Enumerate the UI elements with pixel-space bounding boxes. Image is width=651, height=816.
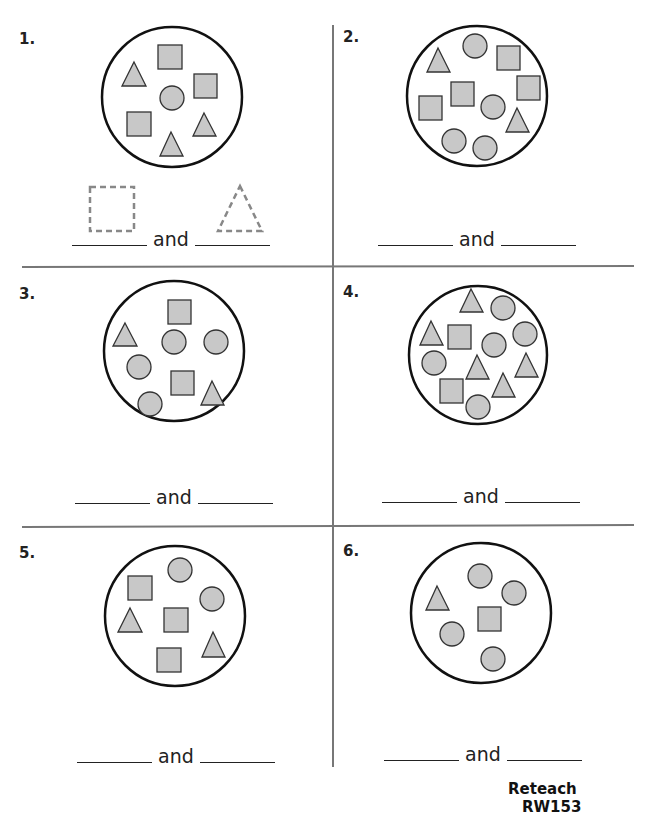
circle-icon xyxy=(127,355,151,379)
horizontal-divider-1 xyxy=(22,266,634,267)
answer-blank-2a[interactable] xyxy=(378,244,453,246)
square-icon xyxy=(158,45,182,69)
shape-set-4 xyxy=(409,286,547,424)
triangle-icon xyxy=(193,113,216,136)
square-icon xyxy=(168,300,191,324)
horizontal-divider-2 xyxy=(22,525,634,527)
triangle-icon xyxy=(160,132,183,156)
circle-icon xyxy=(200,587,224,611)
square-icon xyxy=(497,46,520,70)
circle-icon xyxy=(466,395,490,419)
circle-icon xyxy=(491,296,515,320)
circle-icon xyxy=(482,333,506,357)
and-label: and xyxy=(465,743,501,765)
square-icon xyxy=(171,371,194,395)
problem-number-6: 6. xyxy=(343,542,359,560)
circle-icon xyxy=(440,622,464,646)
shape-set-1 xyxy=(102,27,242,167)
answer-blank-5a[interactable] xyxy=(77,761,152,763)
answer-blank-3a[interactable] xyxy=(75,502,150,504)
and-label: and xyxy=(153,228,189,250)
answer-blank-6a[interactable] xyxy=(384,759,459,761)
triangle-icon xyxy=(460,289,483,312)
circle-icon xyxy=(481,95,505,119)
dashed-triangle-icon xyxy=(218,186,262,231)
footer: Reteach RW153 xyxy=(508,780,651,816)
problem-number-5: 5. xyxy=(19,544,35,562)
answer-blank-1a[interactable] xyxy=(72,244,147,246)
circle-icon xyxy=(502,581,526,605)
shape-set-3 xyxy=(104,281,244,421)
circle-icon xyxy=(513,322,537,346)
circle-icon xyxy=(422,351,446,375)
square-icon xyxy=(164,608,188,632)
shape-set-2 xyxy=(407,26,547,166)
square-icon xyxy=(419,96,442,120)
square-icon xyxy=(194,74,217,98)
circle-icon xyxy=(138,392,162,416)
triangle-icon xyxy=(122,62,146,86)
and-label: and xyxy=(156,486,192,508)
answer-row-4: and xyxy=(382,485,580,507)
triangle-icon xyxy=(427,48,450,72)
triangle-icon xyxy=(420,321,443,345)
answer-blank-1b[interactable] xyxy=(195,244,270,246)
circle-icon xyxy=(463,34,487,58)
square-icon xyxy=(128,576,152,600)
answer-row-5: and xyxy=(77,745,275,767)
circle-icon xyxy=(204,330,228,354)
square-icon xyxy=(478,607,501,631)
dashed-square-icon xyxy=(90,187,134,231)
answer-row-2: and xyxy=(378,228,576,250)
circle-icon xyxy=(160,86,184,110)
shape-set-6 xyxy=(411,543,551,683)
answer-row-3: and xyxy=(75,486,273,508)
shape-set-5 xyxy=(105,546,245,686)
and-label: and xyxy=(459,228,495,250)
circle-icon xyxy=(442,129,466,153)
triangle-icon xyxy=(466,355,489,379)
answer-blank-4b[interactable] xyxy=(505,501,580,503)
square-icon xyxy=(448,325,471,349)
square-icon xyxy=(517,76,540,100)
triangle-icon xyxy=(201,381,224,405)
triangle-icon xyxy=(118,608,142,632)
triangle-icon xyxy=(515,353,538,377)
problem-number-3: 3. xyxy=(19,285,35,303)
square-icon xyxy=(440,379,463,403)
square-icon xyxy=(451,82,474,106)
answer-blank-2b[interactable] xyxy=(501,244,576,246)
footer-code: RW153 xyxy=(522,798,581,816)
footer-label: Reteach xyxy=(508,780,577,798)
answer-blank-5b[interactable] xyxy=(200,761,275,763)
circle-icon xyxy=(473,136,497,160)
problem-number-1: 1. xyxy=(19,30,35,48)
answer-blank-3b[interactable] xyxy=(198,502,273,504)
circle-icon xyxy=(481,647,505,671)
circle-icon xyxy=(168,558,192,582)
and-label: and xyxy=(463,485,499,507)
problem-number-4: 4. xyxy=(343,283,359,301)
answer-blank-4a[interactable] xyxy=(382,501,457,503)
answer-blank-6b[interactable] xyxy=(507,759,582,761)
triangle-icon xyxy=(492,373,515,397)
triangle-icon xyxy=(113,323,137,346)
square-icon xyxy=(157,648,181,672)
problem-number-2: 2. xyxy=(343,28,359,46)
and-label: and xyxy=(158,745,194,767)
circle-icon xyxy=(468,564,492,588)
triangle-icon xyxy=(506,108,529,132)
triangle-icon xyxy=(426,586,449,610)
answer-row-1: and xyxy=(72,228,270,250)
circle-icon xyxy=(162,330,186,354)
answer-row-6: and xyxy=(384,743,582,765)
triangle-icon xyxy=(202,632,225,657)
square-icon xyxy=(127,112,151,136)
